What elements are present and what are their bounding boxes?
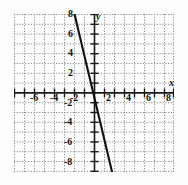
y-tick-label-4: 4 (68, 48, 73, 58)
x-tick-label-8: 8 (166, 93, 171, 103)
y-tick-label-2: 2 (68, 68, 73, 78)
y-tick-label-8: 8 (68, 9, 73, 19)
x-tick-label-neg6: -6 (30, 93, 38, 103)
y-tick-label-6: 6 (68, 29, 73, 39)
x-tick-label-6: 6 (146, 93, 151, 103)
x-tick-label-neg2: -2 (70, 93, 78, 103)
x-axis-label: x (169, 78, 174, 88)
x-tick-label-neg4: -4 (50, 93, 58, 103)
x-tick-label-2: 2 (106, 93, 111, 103)
y-axis-label: y (96, 12, 100, 22)
y-tick-label-neg6: -6 (64, 137, 72, 147)
y-tick-label-neg4: -4 (64, 117, 72, 127)
graph-figure: 8 6 4 2 -2 -4 -6 -8 -6 -4 -2 2 4 6 8 y x (0, 0, 188, 185)
y-tick-label-neg8: -8 (64, 157, 72, 167)
x-tick-label-4: 4 (126, 93, 131, 103)
